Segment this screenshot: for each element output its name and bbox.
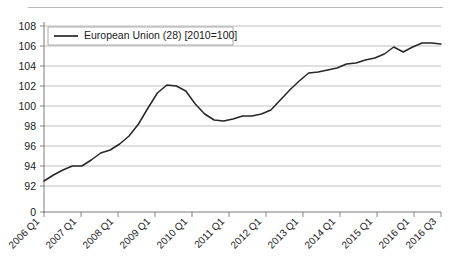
x-tick-label: 2007 Q1 <box>44 215 79 250</box>
y-tick-label: 96 <box>24 140 36 152</box>
y-tick-label: 98 <box>24 120 36 132</box>
y-axis-labels: 108 106 104 102 100 98 96 94 92 0 <box>18 20 36 218</box>
y-tick-label: 104 <box>18 60 36 72</box>
x-tick-label: 2008 Q1 <box>81 215 116 250</box>
x-tick-label: 2009 Q1 <box>118 215 153 250</box>
y-tick-label: 92 <box>24 180 36 192</box>
x-tick-label: 2016 Q3 <box>404 215 439 250</box>
series-line-european-union <box>44 43 441 181</box>
x-tick-label: 2006 Q1 <box>7 215 42 250</box>
y-axis-ticks <box>40 26 44 212</box>
x-tick-label: 2014 Q1 <box>303 215 338 250</box>
x-axis-ticks <box>44 212 441 217</box>
x-axis-labels: 2006 Q1 2007 Q1 2008 Q1 2009 Q1 2010 Q1 … <box>7 215 439 250</box>
chart-canvas: 108 106 104 102 100 98 96 94 92 0 <box>0 0 449 271</box>
line-chart: 108 106 104 102 100 98 96 94 92 0 <box>0 0 449 271</box>
y-tick-label: 108 <box>18 20 36 32</box>
x-tick-label: 2010 Q1 <box>155 215 190 250</box>
legend: European Union (28) [2010=100] <box>48 27 237 45</box>
y-tick-label: 100 <box>18 100 36 112</box>
x-tick-label: 2015 Q1 <box>340 215 375 250</box>
gridlines <box>44 26 441 186</box>
x-tick-label: 2011 Q1 <box>192 215 227 250</box>
legend-entry-label: European Union (28) [2010=100] <box>84 29 237 41</box>
y-tick-label: 106 <box>18 40 36 52</box>
x-tick-label: 2012 Q1 <box>229 215 264 250</box>
x-tick-label: 2013 Q1 <box>266 215 301 250</box>
y-tick-label: 102 <box>18 80 36 92</box>
y-tick-label: 94 <box>24 160 36 172</box>
